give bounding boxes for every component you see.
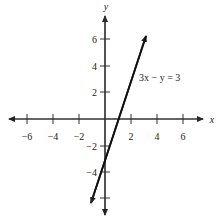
equation-label: 3x − y = 3 (139, 72, 180, 83)
y-tick-labels: 6 4 2 −2 −4 (86, 34, 97, 178)
x-tick-label: −2 (74, 131, 85, 142)
x-tick-label: 2 (129, 131, 134, 142)
x-tick-labels: −6 −4 −2 2 4 6 (22, 131, 186, 142)
y-tick-label: 2 (92, 87, 97, 98)
y-tick-label: 6 (92, 34, 97, 45)
x-axis-label: x (209, 114, 215, 125)
y-axis-label: y (103, 1, 109, 12)
y-tick-label: −4 (86, 167, 97, 178)
y-tick-label: −2 (86, 141, 97, 152)
x-tick-label: 4 (155, 131, 160, 142)
x-tick-label: −4 (48, 131, 59, 142)
x-tick-label: −6 (22, 131, 33, 142)
y-tick-label: 4 (92, 61, 97, 72)
coordinate-plane: −6 −4 −2 2 4 6 6 4 2 −2 −4 y x 3x − y = … (0, 0, 217, 219)
x-tick-label: 6 (181, 131, 186, 142)
